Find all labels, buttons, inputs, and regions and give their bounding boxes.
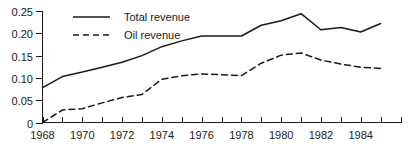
x-tick-label: 1968 xyxy=(30,129,54,141)
legend-label-0: Total revenue xyxy=(124,11,190,23)
series-line-0 xyxy=(43,14,381,88)
chart-plot-area: 00.050.100.150.200.25 196819701972197419… xyxy=(0,0,413,149)
x-tick-label: 1972 xyxy=(110,129,134,141)
x-tick-label: 1976 xyxy=(189,129,213,141)
series-line-1 xyxy=(43,53,381,123)
legend-label-1: Oil revenue xyxy=(124,29,180,41)
x-tick-label-group: 196819701972197419761978198019821984 xyxy=(30,129,373,141)
x-tick-label: 1978 xyxy=(229,129,253,141)
series-group xyxy=(43,14,381,123)
y-axis: 00.050.100.150.200.25 xyxy=(12,6,43,130)
x-tick-label: 1974 xyxy=(150,129,174,141)
x-tick-label: 1980 xyxy=(269,129,293,141)
x-tick-label: 1984 xyxy=(348,129,372,141)
y-tick-label: 0.15 xyxy=(12,51,33,63)
chart-legend: Total revenueOil revenue xyxy=(73,11,190,41)
y-tick-label: 0.20 xyxy=(12,28,33,40)
y-tick-label: 0.25 xyxy=(12,6,33,18)
x-tick-label: 1982 xyxy=(309,129,333,141)
x-axis: 196819701972197419761978198019821984 xyxy=(30,117,401,141)
x-tick-group xyxy=(44,117,402,123)
y-tick-label: 0.10 xyxy=(12,73,33,85)
y-tick-label: 0.05 xyxy=(12,95,33,107)
revenue-line-chart: 00.050.100.150.200.25 196819701972197419… xyxy=(0,0,413,149)
y-tick-label-group: 00.050.100.150.200.25 xyxy=(12,6,33,130)
y-tick-group xyxy=(36,12,43,124)
x-tick-label: 1970 xyxy=(70,129,94,141)
